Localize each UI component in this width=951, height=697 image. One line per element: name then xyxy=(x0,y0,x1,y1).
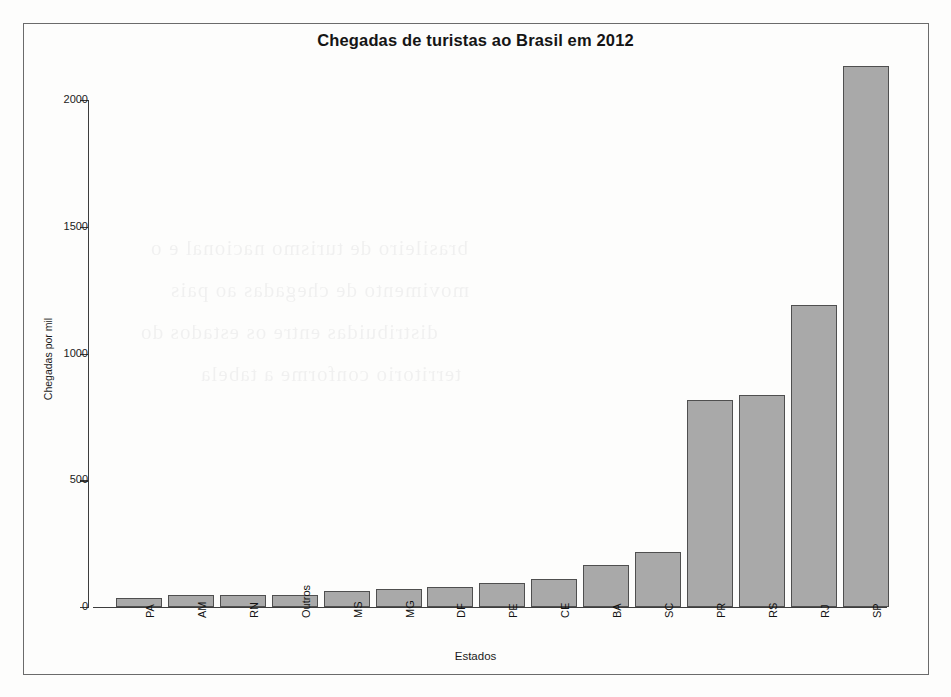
x-tick-label-rj: RJ xyxy=(819,605,831,618)
scanned-chart-page: brasileiro de turismo nacional e o movim… xyxy=(0,0,951,697)
x-tick-label-mg: MG xyxy=(404,600,416,618)
bar-sp[interactable] xyxy=(843,66,889,607)
bar-chart: Chegadas de turistas ao Brasil em 2012 0… xyxy=(0,0,951,697)
bar-rs[interactable] xyxy=(739,395,785,607)
bar-rj[interactable] xyxy=(791,305,837,607)
bar-sc[interactable] xyxy=(635,552,681,607)
x-tick-label-am: AM xyxy=(196,602,208,619)
bar-pr[interactable] xyxy=(687,400,733,607)
bar-ba[interactable] xyxy=(583,565,629,607)
x-tick-label-sp: SP xyxy=(871,603,883,618)
x-tick-label-outros: Outros xyxy=(300,585,312,618)
x-tick-label-pe: PE xyxy=(507,603,519,618)
x-tick-label-rs: RS xyxy=(767,603,779,618)
x-tick-label-sc: SC xyxy=(663,603,675,618)
x-tick-label-pa: PA xyxy=(144,604,156,618)
x-tick-label-pr: PR xyxy=(715,603,727,618)
x-tick-label-df: DF xyxy=(455,603,467,618)
x-tick-label-ce: CE xyxy=(559,603,571,618)
x-tick-label-ms: MS xyxy=(352,602,364,619)
x-tick-label-rn: RN xyxy=(248,602,260,618)
x-tick-label-ba: BA xyxy=(611,603,623,618)
bar-series: PAAMRNOutrosMSMGDFPECEBASCPRRSRJSP xyxy=(0,0,951,697)
